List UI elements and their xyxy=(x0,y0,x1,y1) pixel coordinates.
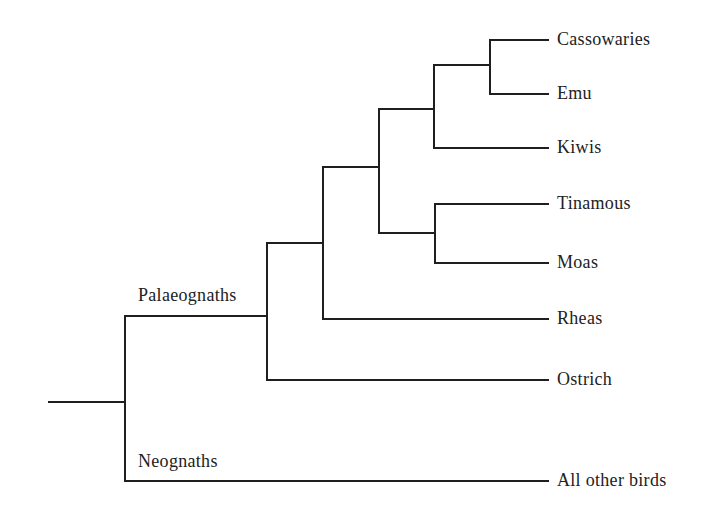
taxon-label-rheas: Rheas xyxy=(557,309,603,327)
taxon-label-all-other-birds: All other birds xyxy=(557,471,667,489)
taxon-label-tinamous: Tinamous xyxy=(557,194,631,212)
taxon-label-ostrich: Ostrich xyxy=(557,370,612,388)
taxon-label-emu: Emu xyxy=(557,84,592,102)
taxon-label-kiwis: Kiwis xyxy=(557,138,602,156)
phylogenetic-tree xyxy=(0,0,717,526)
taxon-label-moas: Moas xyxy=(557,253,598,271)
taxon-label-cassowaries: Cassowaries xyxy=(557,30,650,48)
clade-label-neognaths: Neognaths xyxy=(138,452,218,470)
clade-label-palaeognaths: Palaeognaths xyxy=(138,286,237,304)
